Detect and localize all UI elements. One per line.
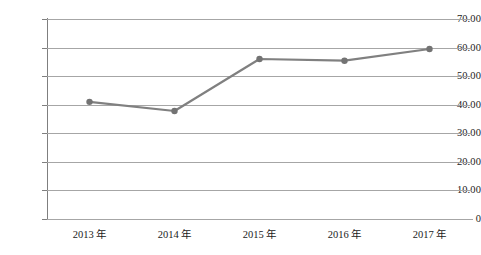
x-axis-tick-label: 2016 年 <box>305 230 385 241</box>
plot-area <box>47 19 472 219</box>
data-point-marker <box>86 99 92 105</box>
line-chart: 70.0060.0050.0040.0030.0020.0010.000 201… <box>0 0 481 255</box>
data-point-marker <box>341 58 347 64</box>
x-axis-tick-label: 2013 年 <box>50 230 130 241</box>
x-axis-tick-label: 2014 年 <box>135 230 215 241</box>
x-axis-line <box>47 219 473 220</box>
series-line-group <box>47 19 472 219</box>
x-axis-tick-label: 2017 年 <box>390 230 470 241</box>
data-point-marker <box>171 108 177 114</box>
data-point-marker <box>256 56 262 62</box>
data-point-marker <box>426 46 432 52</box>
x-axis-tick-label: 2015 年 <box>220 230 300 241</box>
